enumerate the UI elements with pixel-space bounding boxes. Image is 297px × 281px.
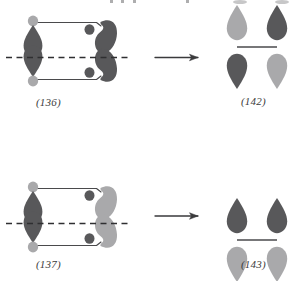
bond-lower-hook — [97, 76, 102, 80]
top-cap-lobe-light — [28, 182, 38, 193]
bond-lower-hook — [97, 242, 102, 246]
left-fragment-137 — [24, 182, 43, 253]
figure-canvas — [0, 0, 297, 281]
right-fragment-137 — [85, 186, 118, 248]
inner-dot-upper-dark — [85, 24, 95, 34]
inner-dot-upper-dark — [85, 190, 95, 200]
orbital-left-bottom-dark — [227, 54, 247, 89]
cropped-text-remnant-top — [110, 0, 289, 4]
orbital-right-bottom-light — [267, 247, 287, 281]
orbital-left-top-light — [227, 5, 247, 40]
orbital-right-top-dark — [267, 198, 287, 233]
s-curve-lower-dark — [95, 49, 117, 82]
structure-label-142: (142) — [241, 95, 266, 107]
reaction-arrow-top — [155, 54, 198, 61]
s-curve-upper-dark — [95, 20, 117, 53]
structure-label-136: (136) — [36, 96, 61, 108]
right-fragment-136 — [85, 20, 118, 82]
reactant-136 — [6, 16, 131, 87]
structure-label-137: (137) — [36, 258, 61, 270]
left-fragment-136 — [24, 16, 43, 87]
orbital-right-bottom-light — [267, 54, 287, 89]
bond-upper-hook — [97, 23, 102, 27]
s-curve-lower-light — [95, 215, 117, 248]
reactant-137 — [6, 182, 131, 253]
lower-lobe-dark — [24, 211, 43, 243]
product-142 — [227, 5, 287, 89]
inner-dot-lower-dark — [85, 67, 95, 77]
bond-upper-hook — [97, 189, 102, 193]
bottom-cap-lobe-light — [28, 76, 38, 87]
s-curve-upper-light — [95, 186, 117, 219]
bottom-cap-lobe-light — [28, 242, 38, 253]
reaction-arrow-bottom — [155, 213, 198, 220]
lower-lobe-dark — [24, 45, 43, 77]
top-cap-lobe-light — [28, 16, 38, 27]
inner-dot-lower-dark — [85, 233, 95, 243]
orbital-diagram-svg — [0, 0, 297, 281]
orbital-left-top-dark — [227, 198, 247, 233]
orbital-right-top-dark — [267, 5, 287, 40]
structure-label-143: (143) — [241, 258, 266, 270]
